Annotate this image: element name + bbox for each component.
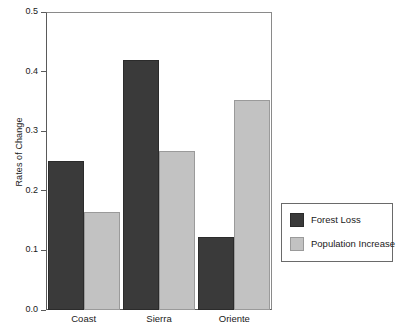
y-tick-label: 0.0	[0, 305, 38, 314]
legend-swatch-forest-loss	[290, 213, 304, 227]
legend-swatch-population-increase	[290, 237, 304, 251]
bar-sierra-forest-loss	[123, 60, 159, 310]
y-tick-mark	[41, 71, 46, 72]
y-tick-label: 0.3	[0, 126, 38, 135]
legend-label-forest-loss: Forest Loss	[311, 214, 361, 226]
legend-item-population-increase: Population Increase	[290, 237, 395, 251]
y-tick-label: 0.1	[0, 245, 38, 254]
y-tick-mark	[41, 131, 46, 132]
y-tick-label: 0.5	[0, 7, 38, 16]
y-tick-label: 0.2	[0, 186, 38, 195]
y-tick-label: 0.4	[0, 67, 38, 76]
bar-oriente-population-increase	[234, 100, 270, 310]
x-axis-label-oriente: Oriente	[189, 313, 279, 325]
bar-sierra-population-increase	[159, 151, 195, 310]
bar-coast-forest-loss	[48, 161, 84, 310]
bar-oriente-forest-loss	[198, 237, 234, 310]
legend-item-forest-loss: Forest Loss	[290, 213, 361, 227]
y-tick-mark	[41, 250, 46, 251]
y-tick-mark	[41, 12, 46, 13]
bar-chart: Rates of Change 0.00.10.20.30.40.5 Coast…	[0, 0, 397, 330]
legend: Forest Loss Population Increase	[281, 203, 393, 262]
y-tick-mark	[41, 190, 46, 191]
bar-coast-population-increase	[84, 212, 120, 310]
y-tick-mark	[41, 310, 46, 311]
legend-label-population-increase: Population Increase	[311, 238, 395, 250]
